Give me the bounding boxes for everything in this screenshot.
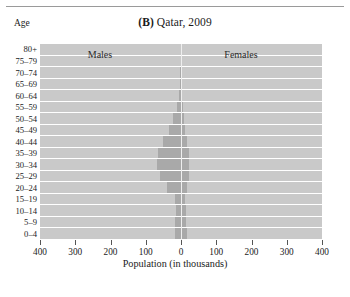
x-tick-label: 100 xyxy=(139,247,153,257)
title-text: Qatar, 2009 xyxy=(157,16,212,28)
top-rule xyxy=(6,6,344,7)
bar-female xyxy=(181,217,186,228)
x-tick-mark xyxy=(111,240,112,245)
x-tick-label: 400 xyxy=(315,247,329,257)
y-tick-label: 30–34 xyxy=(16,161,37,170)
y-tick-label: 60–64 xyxy=(16,92,37,101)
x-tick-label: 300 xyxy=(68,247,82,257)
x-tick-label: 200 xyxy=(104,247,118,257)
bar-female xyxy=(181,148,189,159)
x-tick-label: 100 xyxy=(209,247,223,257)
bar-female xyxy=(181,205,186,216)
y-tick-label: 50–54 xyxy=(16,115,37,124)
bar-female xyxy=(181,182,187,193)
x-tick-mark xyxy=(181,240,182,245)
x-tick-mark xyxy=(322,240,323,245)
x-axis-title: Population (in thousands) xyxy=(0,258,350,269)
x-tick-mark xyxy=(40,240,41,245)
bar-female xyxy=(181,159,189,170)
y-tick-label: 45–49 xyxy=(16,126,37,135)
x-tick-mark xyxy=(75,240,76,245)
y-tick-label: 40–44 xyxy=(16,138,37,147)
bar-male xyxy=(158,148,181,159)
center-axis-line xyxy=(181,44,182,240)
bar-male xyxy=(157,159,181,170)
x-tick-mark xyxy=(252,240,253,245)
y-tick-label: 65–69 xyxy=(16,80,37,89)
bar-female xyxy=(181,228,187,239)
y-tick-label: 35–39 xyxy=(16,149,37,158)
x-tick-mark xyxy=(146,240,147,245)
x-tick-label: 0 xyxy=(179,247,184,257)
panel-label: (B) xyxy=(138,16,154,28)
x-tick-label: 200 xyxy=(245,247,259,257)
y-tick-label: 25–29 xyxy=(16,172,37,181)
group-label-females: Females xyxy=(196,49,286,60)
bar-male xyxy=(160,171,181,182)
bar-female xyxy=(181,194,185,205)
figure-population-pyramid: (B) Qatar, 2009 Age 80+75–7970–7465–6960… xyxy=(0,0,350,297)
y-tick-label: 55–59 xyxy=(16,103,37,112)
y-tick-label: 20–24 xyxy=(16,184,37,193)
bar-female xyxy=(181,125,185,136)
y-tick-label: 5–9 xyxy=(24,218,37,227)
figure-title: (B) Qatar, 2009 xyxy=(0,16,350,28)
x-tick-label: 300 xyxy=(280,247,294,257)
y-axis-tick-labels: 80+75–7970–7465–6960–6455–5950–5445–4940… xyxy=(0,44,37,240)
bar-female xyxy=(181,136,187,147)
bar-male xyxy=(167,182,181,193)
bar-male xyxy=(169,125,181,136)
group-label-males: Males xyxy=(55,49,145,60)
x-tick-mark xyxy=(216,240,217,245)
x-tick-label: 400 xyxy=(33,247,47,257)
y-tick-label: 0–4 xyxy=(24,230,37,239)
bar-male xyxy=(163,136,181,147)
x-tick-mark xyxy=(287,240,288,245)
y-tick-label: 80+ xyxy=(24,45,37,54)
y-tick-label: 15–19 xyxy=(16,195,37,204)
y-axis-title: Age xyxy=(14,18,30,28)
plot-area xyxy=(40,44,322,240)
bar-female xyxy=(181,171,189,182)
y-tick-label: 70–74 xyxy=(16,69,37,78)
y-tick-label: 75–79 xyxy=(16,57,37,66)
y-tick-label: 10–14 xyxy=(16,207,37,216)
